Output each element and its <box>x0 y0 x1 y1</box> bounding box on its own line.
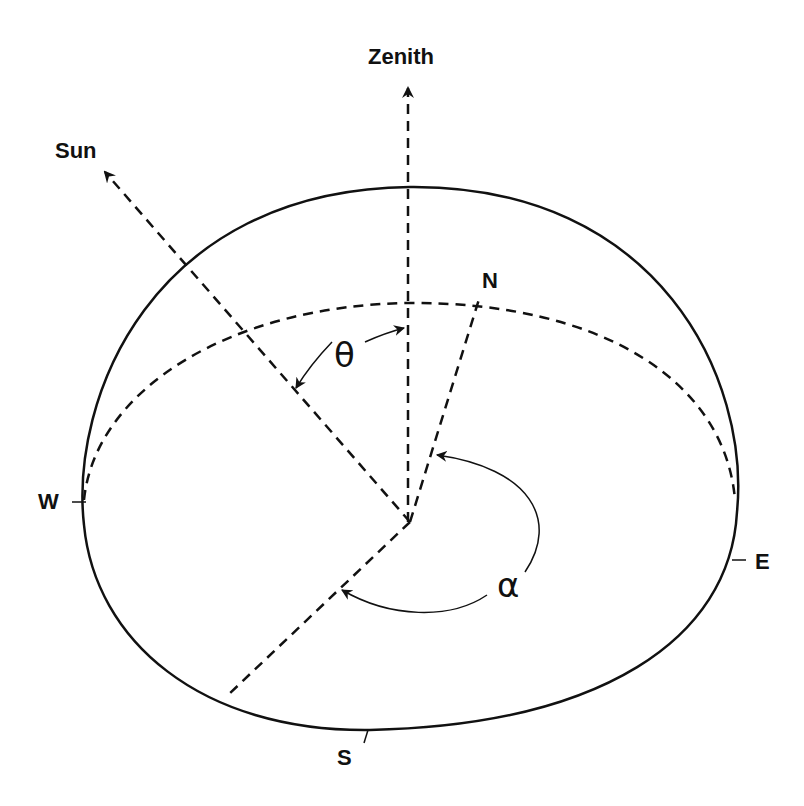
theta-label: θ <box>334 338 355 372</box>
west-label: W <box>38 491 59 513</box>
theta-arc <box>296 342 332 388</box>
solar-hemisphere-diagram <box>0 0 804 806</box>
sun-label: Sun <box>55 140 97 162</box>
sun-projection-line <box>228 522 410 695</box>
south-label: S <box>337 747 352 769</box>
sun-ray <box>105 172 410 522</box>
hemisphere-outline <box>82 187 738 730</box>
zenith-label: Zenith <box>368 46 434 68</box>
alpha-arc-upper <box>437 455 539 572</box>
south-tick <box>364 730 368 743</box>
north-line <box>410 296 480 522</box>
north-label: N <box>482 270 498 292</box>
horizon-back-dashed <box>84 303 735 500</box>
alpha-label: α <box>497 568 519 602</box>
theta-arc-right <box>365 328 404 342</box>
alpha-arc-lower <box>342 590 487 612</box>
east-label: E <box>755 551 770 573</box>
